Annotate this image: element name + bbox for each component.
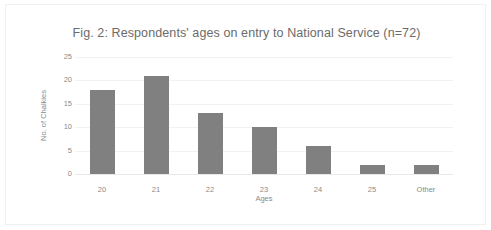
bar[interactable] — [144, 76, 169, 174]
bar-slot — [183, 57, 237, 174]
x-axis-title: Ages — [75, 194, 453, 203]
y-tick-label: 10 — [46, 123, 72, 131]
bar[interactable] — [414, 165, 439, 174]
bar[interactable] — [360, 165, 385, 174]
bar-slot — [75, 57, 129, 174]
y-tick-label: 25 — [46, 53, 72, 61]
x-tick-label: Other — [417, 185, 436, 194]
x-tick-label: 21 — [152, 185, 160, 194]
x-tick-label: 25 — [368, 185, 376, 194]
axis-baseline — [75, 174, 453, 175]
y-tick-label: 15 — [46, 100, 72, 108]
bar-series — [75, 57, 453, 174]
bar[interactable] — [252, 127, 277, 174]
x-tick-label: 22 — [206, 185, 214, 194]
bar[interactable] — [90, 90, 115, 174]
figure-frame: Fig. 2: Respondents' ages on entry to Na… — [5, 4, 486, 225]
y-axis-tick-labels: 25 20 15 10 5 0 — [46, 57, 72, 174]
x-tick-label: 20 — [98, 185, 106, 194]
y-tick-label: 20 — [46, 77, 72, 85]
bar[interactable] — [198, 113, 223, 174]
bar-slot — [345, 57, 399, 174]
bar-slot — [399, 57, 453, 174]
y-tick-label: 5 — [46, 147, 72, 155]
bar-slot — [129, 57, 183, 174]
x-tick-label: 24 — [314, 185, 322, 194]
chart-title: Fig. 2: Respondents' ages on entry to Na… — [6, 26, 487, 40]
y-tick-label: 0 — [46, 170, 72, 178]
x-tick-label: 23 — [260, 185, 268, 194]
bar-slot — [237, 57, 291, 174]
bar-slot — [291, 57, 345, 174]
bar[interactable] — [306, 146, 331, 174]
